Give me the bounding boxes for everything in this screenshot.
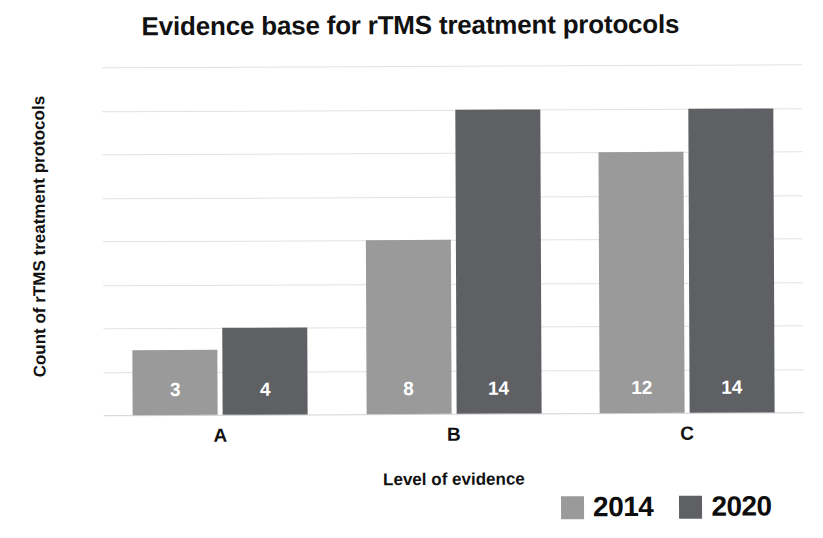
bar-B-2014[interactable]: 8 xyxy=(365,240,451,414)
bar-value-label: 3 xyxy=(133,379,218,401)
bar-value-label: 4 xyxy=(223,378,308,400)
legend-label: 2014 xyxy=(593,491,653,523)
x-axis-tick-label-A: A xyxy=(130,424,310,447)
bar-C-2014[interactable]: 12 xyxy=(598,152,684,413)
bar-value-label: 8 xyxy=(366,378,451,400)
legend-item-2014[interactable]: 2014 xyxy=(561,491,653,523)
bar-value-label: 14 xyxy=(689,376,774,398)
legend-item-2020[interactable]: 2020 xyxy=(679,490,771,522)
bar-A-2014[interactable]: 3 xyxy=(133,350,218,416)
gridline xyxy=(102,64,802,68)
chart-legend: 20142020 xyxy=(561,490,772,523)
x-axis-tick-label-B: B xyxy=(364,423,544,446)
bar-C-2020[interactable]: 14 xyxy=(688,108,774,413)
bar-A-2020[interactable]: 4 xyxy=(222,327,307,414)
y-axis-title: Count of rTMS treatment protocols xyxy=(29,67,50,407)
legend-swatch-icon xyxy=(679,495,702,518)
legend-swatch-icon xyxy=(561,496,584,519)
bar-B-2020[interactable]: 14 xyxy=(455,109,541,414)
bar-value-label: 12 xyxy=(599,377,684,399)
bar-value-label: 14 xyxy=(456,377,541,399)
x-axis-tick-label-C: C xyxy=(597,422,777,445)
x-axis-title: Level of evidence xyxy=(104,468,804,491)
legend-label: 2020 xyxy=(711,490,771,522)
bar-chart-figure: Evidence base for rTMS treatment protoco… xyxy=(0,0,823,538)
chart-title: Evidence base for rTMS treatment protoco… xyxy=(0,8,822,43)
plot-area: 1614121086420348141214 xyxy=(102,64,804,415)
